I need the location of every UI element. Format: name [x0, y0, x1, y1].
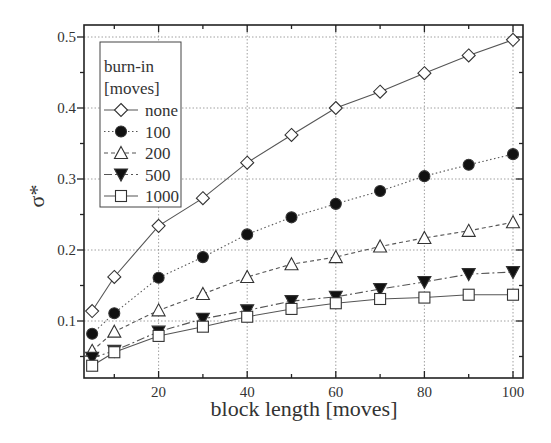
- marker-circle: [419, 171, 430, 182]
- marker-diamond: [418, 67, 431, 80]
- marker-square: [153, 330, 164, 341]
- marker-triangle-up: [152, 304, 165, 316]
- marker-circle: [375, 186, 386, 197]
- marker-circle: [109, 308, 120, 319]
- marker-circle: [116, 126, 127, 137]
- x-axis-title: block length [moves]: [211, 396, 398, 421]
- marker-circle: [463, 159, 474, 170]
- marker-square: [375, 293, 386, 304]
- marker-diamond: [507, 33, 520, 46]
- legend-title-line1: burn-in: [104, 57, 155, 76]
- marker-square: [116, 191, 127, 202]
- legend-label: 1000: [145, 187, 179, 206]
- legend-label: 100: [145, 123, 171, 142]
- legend-title-line2: [moves]: [104, 79, 160, 98]
- legend-label: none: [145, 101, 178, 120]
- marker-diamond: [196, 192, 209, 205]
- marker-square: [419, 292, 430, 303]
- marker-diamond: [86, 305, 99, 318]
- line-chart: 20406080100 0.10.20.30.40.5 block length…: [0, 0, 551, 443]
- y-tick-label: 0.1: [57, 313, 76, 329]
- marker-circle: [286, 212, 297, 223]
- marker-square: [330, 298, 341, 309]
- y-tick-label: 0.2: [57, 242, 76, 258]
- marker-triangle-up: [241, 270, 254, 282]
- marker-triangle-up: [196, 288, 209, 300]
- series-500: [86, 267, 520, 365]
- marker-diamond: [241, 156, 254, 169]
- series-1000: [87, 289, 519, 371]
- marker-circle: [87, 328, 98, 339]
- marker-circle: [153, 272, 164, 283]
- marker-square: [463, 289, 474, 300]
- marker-square: [242, 311, 253, 322]
- legend-label: 200: [145, 144, 171, 163]
- y-tick-labels: 0.10.20.30.40.5: [57, 29, 76, 329]
- marker-square: [508, 289, 519, 300]
- marker-triangle-up: [329, 251, 342, 263]
- marker-triangle-up: [507, 216, 520, 228]
- marker-circle: [330, 198, 341, 209]
- x-tick-label: 20: [151, 384, 166, 400]
- marker-triangle-up: [108, 325, 121, 337]
- marker-square: [197, 321, 208, 332]
- y-tick-label: 0.3: [57, 171, 76, 187]
- marker-square: [109, 347, 120, 358]
- x-tick-label: 100: [502, 384, 525, 400]
- marker-triangle-up: [462, 224, 475, 236]
- marker-square: [87, 360, 98, 371]
- marker-triangle-up: [285, 258, 298, 270]
- legend-label: 500: [145, 166, 171, 185]
- marker-triangle-down: [462, 269, 475, 281]
- y-tick-label: 0.4: [57, 100, 76, 116]
- marker-circle: [197, 252, 208, 263]
- marker-diamond: [374, 85, 387, 98]
- y-tick-label: 0.5: [57, 29, 76, 45]
- legend: burn-in [moves] none1002005001000: [100, 42, 181, 207]
- marker-diamond: [329, 102, 342, 115]
- y-axis-title: σ*: [24, 185, 49, 208]
- series-200: [86, 216, 520, 357]
- x-tick-label: 80: [417, 384, 432, 400]
- marker-diamond: [285, 128, 298, 141]
- marker-triangle-up: [374, 240, 387, 252]
- marker-circle: [508, 149, 519, 160]
- marker-square: [286, 303, 297, 314]
- marker-diamond: [462, 49, 475, 62]
- marker-circle: [242, 229, 253, 240]
